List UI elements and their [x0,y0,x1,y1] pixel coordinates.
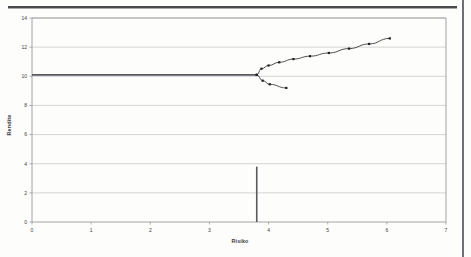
x-tick-label-4: 4 [267,227,270,233]
efficient-frontier-upper-marker-5 [309,55,311,57]
y-tick-label-4: 4 [24,161,27,167]
x-tick-label-5: 5 [326,227,329,233]
x-axis-title: Risiko [200,238,280,244]
efficient-frontier-upper-marker-1 [260,68,262,70]
plot-frame [32,18,446,222]
reference-lines [32,75,257,222]
y-tick-label-14: 14 [21,15,27,21]
x-axis: 01234567 [31,222,448,233]
x-tick-label-0: 0 [31,227,34,233]
y-axis: 02468101214 [21,15,32,225]
y-tick-label-2: 2 [24,190,27,196]
efficient-frontier-plot: 01234567 02468101214 [0,10,462,257]
y-tick-label-6: 6 [24,131,27,137]
chart-figure: 01234567 02468101214 Rendite Risiko [0,10,462,257]
inefficient-frontier-lower-line [257,75,287,88]
data-series [256,37,391,89]
efficient-frontier-upper-marker-6 [328,52,330,54]
y-tick-label-10: 10 [21,73,27,79]
x-tick-label-1: 1 [90,227,93,233]
x-tick-label-2: 2 [149,227,152,233]
efficient-frontier-upper-marker-3 [278,61,280,63]
page-right-rule [462,0,464,257]
y-tick-label-0: 0 [24,219,27,225]
x-tick-label-7: 7 [445,227,448,233]
page-top-rule-shadow [8,8,457,9]
inefficient-frontier-lower-marker-0 [256,74,258,76]
efficient-frontier-upper-marker-4 [292,58,294,60]
efficient-frontier-upper-marker-2 [267,64,269,66]
x-tick-label-6: 6 [385,227,388,233]
scanned-page: 01234567 02468101214 Rendite Risiko [0,0,471,257]
efficient-frontier-upper-marker-8 [368,43,370,45]
y-tick-label-8: 8 [24,102,27,108]
inefficient-frontier-lower-marker-3 [285,87,287,89]
inefficient-frontier-lower-marker-2 [269,83,271,85]
gridlines [32,18,446,193]
efficient-frontier-upper-marker-7 [348,48,350,50]
y-tick-label-12: 12 [21,44,27,50]
y-axis-title: Rendite [6,105,12,145]
efficient-frontier-upper-marker-9 [389,37,391,39]
inefficient-frontier-lower-marker-1 [262,80,264,82]
x-tick-label-3: 3 [208,227,211,233]
